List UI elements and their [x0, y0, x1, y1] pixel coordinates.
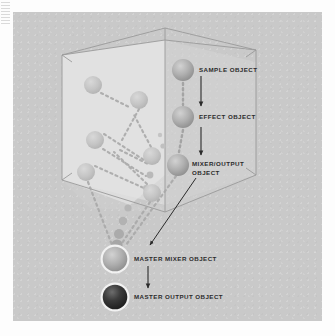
interior-node-5	[77, 163, 95, 181]
interior-node-2	[130, 91, 148, 109]
interior-node-6	[143, 184, 161, 202]
label-effect-object: EFFECT OBJECT	[199, 113, 256, 122]
label-sample-object: SAMPLE OBJECT	[199, 66, 257, 75]
label-mixer-output-object-line2: OBJECT	[192, 169, 220, 178]
figure-stage: SAMPLE OBJECT EFFECT OBJECT MIXER/OUTPUT…	[0, 0, 335, 336]
label-master-output-object: MASTER OUTPUT OBJECT	[134, 293, 223, 302]
mixer-output-object-node	[167, 154, 189, 176]
label-mixer-output-object-line1: MIXER/OUTPUT	[192, 160, 244, 169]
master-mixer-object-node	[103, 247, 128, 272]
interior-node-4	[143, 147, 161, 165]
sample-object-node	[172, 59, 194, 81]
interior-node-3	[86, 131, 104, 149]
interior-node-1	[84, 76, 102, 94]
master-output-object-node	[103, 285, 128, 310]
diagram-artwork	[0, 0, 335, 336]
effect-object-node	[172, 106, 194, 128]
label-master-mixer-object: MASTER MIXER OBJECT	[134, 255, 217, 264]
